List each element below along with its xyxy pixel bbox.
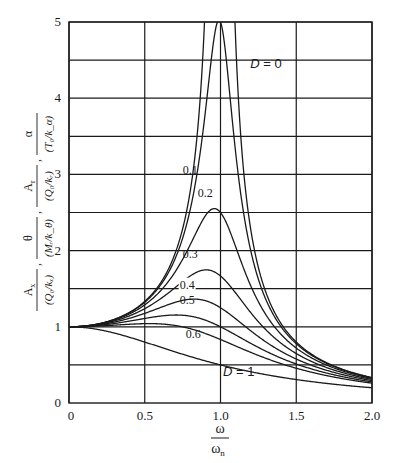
y-label-denominator: (T₀/k_α)	[42, 115, 55, 152]
y-tick-label: 5	[55, 14, 62, 29]
y-tick-label: 2	[55, 243, 62, 258]
x-tick-label: 0	[68, 408, 75, 423]
x-label-denominator: ωn	[211, 441, 225, 458]
y-tick-label: 1	[55, 319, 62, 334]
x-tick-label: 2.0	[364, 408, 380, 423]
y-label-numerator: Ar	[21, 180, 37, 192]
y-label-numerator: Ax	[21, 284, 37, 297]
y-label-denominator: (Q₀/kᵣ)	[42, 171, 55, 201]
y-tick-label: 4	[55, 90, 62, 105]
magnification-factor-chart: 00.51.01.52.0 012345 D = 00.10.20.30.40.…	[0, 0, 397, 463]
curve-label: D = 0	[250, 56, 281, 71]
x-tick-label: 1.5	[288, 408, 304, 423]
y-label-separator: ,	[29, 263, 43, 266]
x-axis-label: ω ωn	[211, 421, 229, 458]
y-axis-label: Ax(Q₀/kₓ),θ(Mᵣ/k_θ),Ar(Q₀/kᵣ),α(T₀/k_α)	[21, 113, 55, 311]
y-label-denominator: (Mᵣ/k_θ)	[42, 219, 55, 257]
curve-label: 0.3	[183, 247, 198, 261]
curve-label: 0.6	[186, 327, 201, 341]
y-tick-label: 3	[55, 166, 62, 181]
y-label-separator: ,	[29, 159, 43, 162]
y-label-denominator: (Q₀/kₓ)	[42, 275, 55, 305]
curve-label: 0.1	[183, 163, 198, 177]
y-label-numerator: α	[21, 130, 35, 137]
x-label-numerator: ω	[215, 421, 224, 436]
curve-label: 0.5	[180, 293, 195, 307]
y-label-separator: ,	[29, 211, 43, 214]
x-tick-label: 0.5	[137, 408, 153, 423]
y-label-numerator: θ	[21, 235, 35, 241]
curve-label: D = 1	[223, 364, 254, 379]
curve-label: 0.4	[180, 278, 195, 292]
curve-label: 0.2	[198, 186, 213, 200]
y-axis-ticks: 012345	[55, 14, 62, 410]
y-tick-label: 0	[55, 395, 62, 410]
